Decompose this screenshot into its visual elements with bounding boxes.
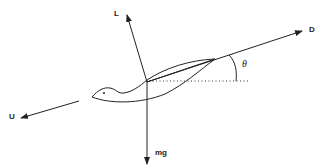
bird-eye-icon bbox=[103, 92, 105, 94]
velocity-label: U bbox=[9, 113, 15, 121]
drag-label: D bbox=[309, 26, 315, 34]
drag-arrow bbox=[147, 31, 302, 82]
diagram-graphics bbox=[0, 0, 328, 167]
force-diagram: L D U mg θ bbox=[0, 0, 328, 167]
angle-arc bbox=[229, 55, 236, 81]
velocity-arrow bbox=[21, 101, 79, 118]
lift-arrow bbox=[127, 15, 147, 82]
lift-label: L bbox=[114, 10, 119, 18]
weight-label: mg bbox=[155, 149, 167, 157]
angle-label: θ bbox=[242, 59, 247, 69]
